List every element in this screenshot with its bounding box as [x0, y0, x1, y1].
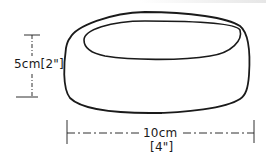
- bowl-outline: [64, 12, 249, 113]
- width-label-imperial: [4"]: [150, 141, 173, 154]
- height-label: 5cm[2"]: [14, 58, 64, 71]
- width-label: 10cm: [143, 127, 177, 140]
- bowl-drawing: [0, 0, 266, 167]
- bowl-rim: [84, 21, 240, 59]
